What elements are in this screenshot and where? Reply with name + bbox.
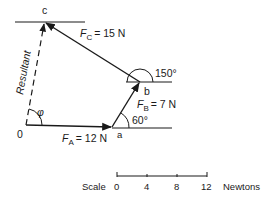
- scale-unit: Newtons: [223, 181, 260, 192]
- resultant-label: Resultant: [13, 49, 33, 96]
- point-label-b: b: [144, 85, 150, 97]
- vector-fc: [46, 23, 140, 82]
- scale-tick-4: 4: [144, 181, 149, 192]
- angle-arc-60: [121, 113, 129, 128]
- scale-tick-8: 8: [174, 181, 179, 192]
- force-label-fb: FB= 7 N: [137, 98, 176, 113]
- scale-tick-0: 0: [114, 181, 119, 192]
- point-label-origin: 0: [17, 128, 23, 140]
- force-label-fc: FC= 15 N: [80, 27, 125, 42]
- point-label-c: c: [42, 4, 47, 16]
- force-diagram: c b a 0 FC= 15 N FB= 7 N FA= 12 N Result…: [0, 0, 277, 204]
- angle-label-150: 150°: [155, 67, 177, 79]
- scale-label: Scale: [82, 181, 106, 192]
- point-label-a: a: [117, 129, 123, 140]
- angle-label-60: 60°: [132, 114, 148, 126]
- scale-tick-12: 12: [201, 181, 212, 192]
- angle-label-phi: φ: [37, 106, 44, 118]
- scale-bar: [117, 172, 207, 177]
- force-label-fa: FA= 12 N: [62, 132, 107, 147]
- vector-fa: [26, 125, 111, 127]
